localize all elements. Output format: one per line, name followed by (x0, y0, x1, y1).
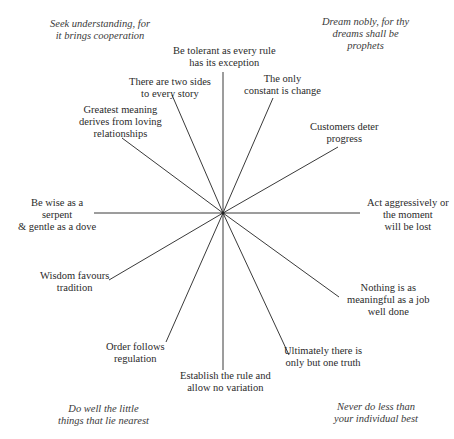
label-act-aggressively: Act aggressively or the moment will be l… (367, 197, 449, 233)
corner-quote-bottom-right: Never do less than your individual best (334, 401, 418, 425)
label-wisdom-tradition: Wisdom favours tradition (40, 270, 109, 294)
center-hub (221, 211, 224, 214)
label-one-truth: Ultimately there is only but one truth (284, 345, 362, 369)
label-wise-serpent: Be wise as a serpent & gentle as a dove (18, 197, 96, 233)
label-establish-rule: Establish the rule and allow no variatio… (180, 370, 271, 394)
spoke-customers (223, 147, 338, 213)
spoke-only-constant (223, 98, 273, 213)
spoke-greatest-meaning (122, 138, 223, 213)
label-only-constant: The only constant is change (244, 73, 321, 97)
spoke-two-sides (172, 95, 223, 213)
spoke-wisdom-tradition (109, 213, 223, 280)
label-customers: Customers deter progress (310, 121, 379, 145)
label-two-sides: There are two sides to every story (129, 76, 211, 100)
label-tolerant: Be tolerant as every rule has its except… (173, 45, 276, 69)
label-greatest-meaning: Greatest meaning derives from loving rel… (79, 104, 162, 140)
corner-quote-top-left: Seek understanding, for it brings cooper… (50, 18, 150, 42)
spoke-job-well-done (223, 213, 339, 297)
spoke-order-regulation (166, 213, 223, 342)
label-job-well-done: Nothing is as meaningful as a job well d… (347, 282, 430, 318)
label-order-regulation: Order follows regulation (106, 341, 165, 365)
spoke-one-truth (223, 213, 289, 355)
corner-quote-bottom-left: Do well the little things that lie neare… (58, 403, 149, 427)
corner-quote-top-right: Dream nobly, for thy dreams shall be pro… (322, 16, 409, 52)
